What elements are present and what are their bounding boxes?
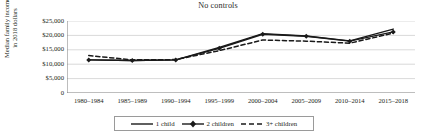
x-axis-tick-label: 2015–2018 xyxy=(378,97,408,104)
x-axis-tick-label: 2010–2014 xyxy=(335,97,365,104)
gridlines xyxy=(67,21,415,79)
x-axis-tick-label: 1990–1994 xyxy=(161,97,191,104)
axis-lines xyxy=(67,21,415,93)
legend-swatch-solid-line-icon xyxy=(131,120,153,128)
legend-label-3plus-children: 3+ children xyxy=(266,120,297,127)
legend-item-2-children[interactable]: 2 children xyxy=(182,120,234,128)
plot-area xyxy=(67,21,415,93)
x-axis-tick-label: 1995–1999 xyxy=(204,97,234,104)
x-axis-tick-label: 1985–1989 xyxy=(117,97,147,104)
series-layer xyxy=(86,29,396,63)
x-axis-tick-label: 2000–2004 xyxy=(248,97,278,104)
legend-item-3plus-children[interactable]: 3+ children xyxy=(241,120,297,128)
y-axis-title-line1: Median family income xyxy=(3,0,11,58)
legend-swatch-diamond-marker-icon xyxy=(182,120,204,128)
y-axis-tick-labels: 0$5,000$10,000$15,000$20,000$25,000 xyxy=(18,0,64,137)
legend-item-1-child[interactable]: 1 child xyxy=(131,120,175,128)
x-axis-tick-label: 2005–2009 xyxy=(291,97,321,104)
series-line-2 xyxy=(89,33,394,60)
chart-legend: 1 child 2 children 3+ children xyxy=(114,116,314,131)
y-axis-tick-label: $5,000 xyxy=(20,75,64,82)
series-marker xyxy=(86,57,91,62)
y-axis-tick-label: $20,000 xyxy=(20,32,64,39)
series-line-1 xyxy=(89,32,394,61)
legend-label-2-children: 2 children xyxy=(207,120,234,127)
y-axis-tick-label: $15,000 xyxy=(20,46,64,53)
legend-swatch-dashed-line-icon xyxy=(241,120,263,128)
y-axis-tick-label: $25,000 xyxy=(20,18,64,25)
series-marker xyxy=(260,32,265,37)
y-axis-tick-label: $10,000 xyxy=(20,61,64,68)
x-axis-tick-labels: 1980–19841985–19891990–19941995–19992000… xyxy=(67,97,415,108)
legend-label-1-child: 1 child xyxy=(156,120,175,127)
x-axis-tick-label: 1980–1984 xyxy=(74,97,104,104)
series-marker xyxy=(304,34,309,39)
chart-figure: No controls Median family income in 2018… xyxy=(0,0,424,137)
plot-svg xyxy=(67,21,415,93)
y-axis-tick-label: 0 xyxy=(20,90,64,97)
